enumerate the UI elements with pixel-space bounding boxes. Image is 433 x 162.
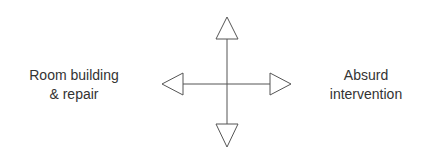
- arrow-up-icon: [216, 17, 238, 39]
- axis-cross-diagram: [0, 0, 433, 162]
- arrow-left-icon: [162, 73, 183, 95]
- arrow-right-icon: [270, 73, 291, 95]
- arrow-down-icon: [216, 124, 238, 147]
